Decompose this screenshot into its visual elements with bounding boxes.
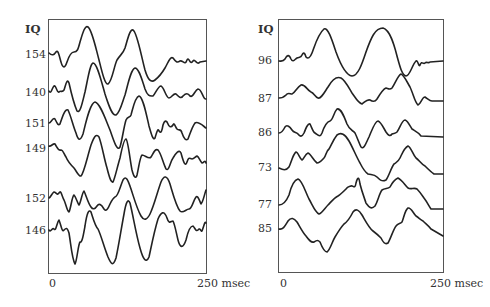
left-label-4: 149 [25, 142, 46, 155]
left-label-5: 152 [25, 192, 46, 205]
waveform-85 [279, 208, 443, 252]
right-label-6: 85 [258, 222, 272, 235]
waveform-77 [279, 178, 443, 214]
waveform-151 [49, 96, 206, 148]
waveform-149 [49, 135, 206, 182]
left-iq-header: IQ [25, 22, 40, 36]
waveform-73 [279, 134, 443, 181]
right-label-5: 77 [258, 198, 272, 211]
left-label-2: 140 [25, 86, 46, 99]
right-x-start: 0 [280, 277, 287, 290]
left-waveforms [49, 27, 206, 264]
waveform-140 [49, 63, 206, 115]
right-label-4: 73 [258, 161, 272, 174]
right-iq-header: IQ [258, 22, 273, 36]
waveform-87 [279, 74, 443, 105]
waveform-154 [49, 27, 206, 84]
waveform-146 [49, 201, 206, 264]
waveform-96 [279, 28, 443, 76]
waveform-152 [49, 177, 206, 219]
right-label-3: 86 [258, 126, 272, 139]
right-label-1: 96 [258, 54, 272, 67]
waveform-86 [279, 109, 443, 148]
right-x-end: 250 msec [430, 277, 483, 290]
left-x-end: 250 msec [197, 277, 250, 290]
left-label-1: 154 [25, 48, 46, 61]
left-label-6: 146 [25, 224, 46, 237]
left-label-3: 151 [25, 117, 46, 130]
right-label-2: 87 [258, 92, 272, 105]
waveform-figure [0, 0, 490, 307]
right-waveforms [279, 28, 443, 252]
left-x-start: 0 [49, 277, 56, 290]
